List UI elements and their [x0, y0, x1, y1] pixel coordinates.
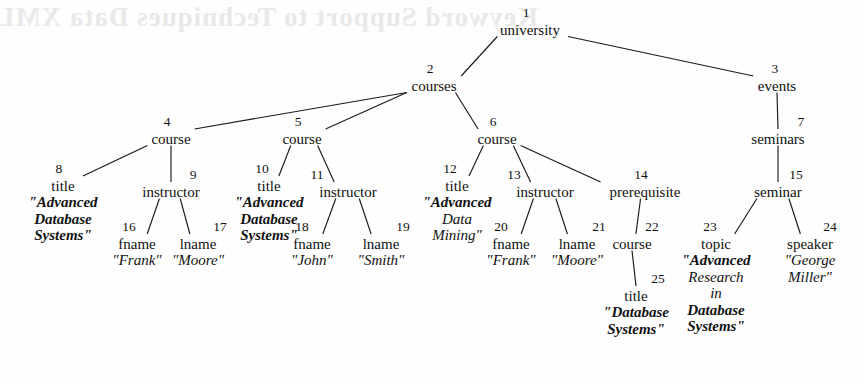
- value-line: Database: [687, 302, 745, 318]
- node-id-6: 6: [490, 115, 497, 128]
- value-line: "Frank": [112, 252, 161, 268]
- node-label: fname: [293, 236, 330, 252]
- node-label: topic: [701, 236, 731, 252]
- node-id-9: 9: [190, 168, 197, 181]
- tree-edge-14-22: [636, 199, 641, 235]
- tree-edge-15-23: [735, 199, 757, 235]
- node-label: events: [758, 78, 796, 94]
- tree-node-instructor-11: instructor11: [319, 183, 377, 201]
- node-value-25: "DatabaseSystems": [603, 304, 669, 337]
- tree-node-seminars-7: seminars7: [751, 130, 804, 148]
- node-label: university: [500, 22, 560, 38]
- value-line: Systems": [687, 318, 745, 334]
- node-id-14: 14: [634, 168, 648, 181]
- value-line: Systems": [240, 227, 298, 243]
- tree-edge-6-14: [521, 146, 601, 183]
- tree-node-title-25: title25: [624, 287, 647, 305]
- node-id-2: 2: [427, 62, 434, 75]
- node-id-11: 11: [311, 168, 324, 181]
- node-value-23: "AdvancedResearchinDatabaseSystems": [681, 252, 750, 335]
- node-label: courses: [412, 78, 457, 94]
- tree-edge-13-20: [521, 199, 533, 235]
- value-line: Research: [688, 269, 743, 285]
- node-id-19: 19: [396, 220, 410, 233]
- value-line: "Advanced: [234, 194, 303, 210]
- node-id-16: 16: [122, 220, 136, 233]
- tree-edge-5-10: [279, 146, 291, 177]
- node-value-21: "Moore": [551, 252, 603, 269]
- node-id-24: 24: [823, 220, 837, 233]
- node-value-8: "AdvancedDatabaseSystems": [28, 194, 97, 244]
- node-label: course: [282, 131, 321, 147]
- tree-edge-4-8: [83, 146, 147, 177]
- node-label: title: [51, 178, 74, 194]
- node-label: lname: [363, 236, 400, 252]
- node-id-1: 1: [523, 6, 530, 19]
- scan-bleedthrough-ghost-text: Keyword Support to Techniques Data XML f…: [18, 2, 538, 58]
- value-line: "Moore": [172, 252, 224, 268]
- value-line: Data: [442, 211, 472, 227]
- tree-node-topic-23: topic23: [701, 235, 731, 253]
- tree-node-title-8: title8: [51, 177, 74, 195]
- tree-node-title-12: title12: [445, 177, 468, 195]
- tree-node-course-22: course22: [612, 235, 651, 253]
- value-line: Systems": [34, 227, 92, 243]
- tree-node-prerequisite-14: prerequisite14: [610, 183, 681, 201]
- node-label: title: [445, 178, 468, 194]
- node-label: speaker: [787, 236, 833, 252]
- tree-node-course-6: course6: [477, 130, 516, 148]
- node-value-20: "Frank": [486, 252, 535, 269]
- tree-edge-9-16: [147, 199, 159, 235]
- node-id-21: 21: [592, 220, 606, 233]
- node-label: instructor: [516, 184, 574, 200]
- tree-node-seminar-15: seminar15: [754, 183, 801, 201]
- tree-edge-2-6: [455, 93, 478, 130]
- tree-edge-3-7: [777, 93, 778, 130]
- tree-node-lname-17: lname17: [180, 235, 217, 253]
- value-line: "Smith": [358, 252, 405, 268]
- node-id-25: 25: [651, 272, 665, 285]
- tree-node-lname-21: lname21: [559, 235, 596, 253]
- tree-node-speaker-24: speaker24: [787, 235, 833, 253]
- node-id-3: 3: [772, 62, 779, 75]
- node-label: fname: [492, 236, 529, 252]
- node-label: course: [477, 131, 516, 147]
- tree-node-instructor-13: instructor13: [516, 183, 574, 201]
- node-id-10: 10: [255, 162, 269, 175]
- node-value-19: "Smith": [358, 252, 405, 269]
- tree-node-course-5: course5: [282, 130, 321, 148]
- value-line: "Database: [603, 304, 669, 320]
- tree-edge-2-5: [326, 93, 407, 130]
- node-label: lname: [180, 236, 217, 252]
- node-value-16: "Frank": [112, 252, 161, 269]
- tree-diagram-canvas: Keyword Support to Techniques Data XML f…: [0, 0, 864, 384]
- node-label: instructor: [319, 184, 377, 200]
- node-value-18: "John": [291, 252, 333, 269]
- node-id-8: 8: [56, 162, 63, 175]
- node-value-17: "Moore": [172, 252, 224, 269]
- tree-node-fname-18: fname18: [293, 235, 330, 253]
- tree-edge-13-21: [556, 199, 568, 235]
- value-line: in: [710, 285, 722, 301]
- value-line: "Advanced: [28, 194, 97, 210]
- node-label: title: [257, 178, 280, 194]
- node-label: fname: [118, 236, 155, 252]
- tree-node-title-10: title10: [257, 177, 280, 195]
- node-id-20: 20: [494, 220, 508, 233]
- node-label: seminar: [754, 184, 801, 200]
- value-line: "John": [291, 252, 333, 268]
- tree-edge-15-24: [789, 199, 801, 235]
- tree-edge-1-2: [461, 37, 497, 77]
- node-id-23: 23: [703, 220, 717, 233]
- node-value-24: "GeorgeMiller": [785, 252, 836, 285]
- value-line: Database: [34, 211, 92, 227]
- tree-node-instructor-9: instructor9: [142, 183, 200, 201]
- tree-edge-1-3: [568, 37, 753, 77]
- tree-node-university-1: university1: [500, 21, 560, 39]
- tree-node-course-4: course4: [151, 130, 190, 148]
- node-label: course: [612, 236, 651, 252]
- node-label: title: [624, 288, 647, 304]
- node-id-4: 4: [164, 115, 171, 128]
- tree-node-fname-16: fname16: [118, 235, 155, 253]
- tree-edge-11-19: [359, 199, 371, 235]
